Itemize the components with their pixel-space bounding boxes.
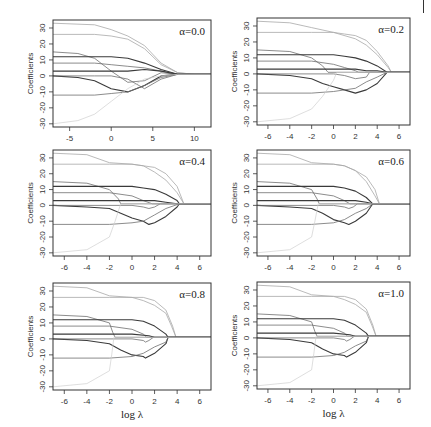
coef-line-b2 (257, 296, 410, 336)
x-tick-label: 6 (397, 263, 402, 272)
x-tick-label: 0 (130, 263, 135, 272)
x-tick-label: 4 (175, 263, 180, 272)
coef-line-b5 (53, 63, 211, 74)
y-axis-label: Coefficients (26, 182, 35, 224)
y-tick-label: -30 (38, 247, 47, 259)
y-tick-label: 0 (242, 203, 251, 208)
coefficient-paths (257, 21, 410, 122)
y-tick-label: 30 (242, 21, 251, 30)
coef-line-b5 (53, 193, 211, 204)
y-tick-label: 20 (38, 302, 47, 311)
x-tick-label: 0 (331, 396, 336, 405)
y-tick-label: 20 (242, 169, 251, 178)
y-tick-label: -20 (38, 365, 47, 377)
y-tick-label: 30 (38, 23, 47, 32)
y-tick-label: -10 (242, 215, 251, 227)
y-tick-label: 20 (242, 37, 251, 46)
coefficient-paths (257, 153, 410, 253)
y-tick-label: -30 (38, 117, 47, 129)
x-tick-label: 2 (353, 132, 358, 141)
x-tick-label: -4 (286, 132, 294, 141)
y-tick-label: -20 (38, 231, 47, 243)
x-tick-label: -6 (264, 132, 272, 141)
y-tick-label: 20 (38, 169, 47, 178)
y-tick-label: 10 (242, 53, 251, 62)
coef-line-b7 (53, 204, 211, 225)
x-tick-label: -6 (61, 397, 69, 406)
y-tick-label: 0 (38, 203, 47, 208)
x-axis-label: log λ (121, 408, 144, 420)
y-tick-label: -30 (242, 379, 251, 391)
x-tick-label: -4 (286, 396, 294, 405)
figure: 3020100-10-20-30-50510Coefficientsα=0.03… (0, 0, 431, 427)
y-tick-label: 30 (38, 153, 47, 162)
corner-mark (423, 0, 424, 13)
y-tick-label: -30 (38, 380, 47, 392)
x-tick-label: 5 (151, 134, 156, 143)
x-tick-label: 4 (375, 396, 380, 405)
y-tick-label: -10 (242, 84, 251, 96)
coef-line-b4 (257, 186, 410, 203)
coefficient-paths (53, 153, 211, 253)
panel-4: 3020100-10-20-30-6-4-20246Coefficientsα=… (230, 150, 410, 272)
x-tick-label: -4 (83, 263, 91, 272)
coef-line-b4 (53, 320, 211, 338)
x-tick-label: -4 (83, 397, 91, 406)
coef-line-b5 (257, 325, 410, 336)
x-tick-label: 6 (197, 397, 202, 406)
panel-1: 3020100-10-20-30-50510Coefficientsα=0.0 (26, 20, 211, 143)
x-tick-label: 0 (130, 397, 135, 406)
y-tick-label: -30 (242, 115, 251, 127)
y-tick-label: 30 (242, 285, 251, 294)
y-tick-label: -20 (242, 100, 251, 112)
x-tick-label: 10 (190, 134, 199, 143)
panel-5: 3020100-10-20-30-6-4-20246Coefficientsα=… (26, 283, 211, 420)
y-tick-label: 30 (242, 153, 251, 162)
y-tick-label: 20 (242, 301, 251, 310)
coef-line-b10 (53, 204, 211, 253)
x-tick-label: -2 (106, 263, 114, 272)
x-tick-label: 0 (109, 134, 114, 143)
coef-line-b4 (53, 57, 211, 75)
x-tick-label: -2 (106, 397, 114, 406)
y-tick-label: -10 (38, 349, 47, 361)
alpha-label: α=1.0 (378, 287, 404, 299)
coef-line-b2 (53, 164, 211, 204)
y-tick-label: -20 (242, 364, 251, 376)
x-tick-label: -2 (308, 132, 316, 141)
y-tick-label: 0 (38, 73, 47, 78)
y-tick-label: 10 (38, 55, 47, 64)
x-tick-label: 0 (331, 132, 336, 141)
panel-3: 3020100-10-20-30-6-4-20246Coefficientsα=… (26, 150, 211, 272)
coefficient-paths (53, 286, 211, 387)
x-axis-label: log λ (322, 407, 345, 419)
alpha-label: α=0.8 (179, 288, 205, 300)
coef-line-b2 (53, 34, 211, 74)
coef-line-b10 (257, 336, 410, 386)
y-tick-label: 20 (38, 39, 47, 48)
y-axis-label: Coefficients (230, 315, 239, 357)
y-axis-label: Coefficients (230, 182, 239, 224)
y-tick-label: 10 (242, 185, 251, 194)
y-tick-label: -20 (38, 102, 47, 114)
coef-line-b4 (257, 319, 410, 337)
x-tick-label: 4 (375, 263, 380, 272)
coef-line-b5 (53, 326, 211, 337)
coefficient-paths (53, 23, 211, 124)
x-tick-label: 0 (331, 263, 336, 272)
y-tick-label: -10 (38, 215, 47, 227)
x-tick-label: -6 (264, 263, 272, 272)
alpha-label: α=0.0 (179, 25, 205, 37)
y-tick-label: 0 (242, 71, 251, 76)
x-tick-label: -6 (61, 263, 69, 272)
y-axis-label: Coefficients (230, 51, 239, 93)
alpha-label: α=0.2 (378, 23, 404, 35)
alpha-label: α=0.4 (179, 155, 205, 167)
y-tick-label: 10 (38, 318, 47, 327)
coef-line-b2 (53, 297, 211, 337)
x-tick-label: -2 (308, 263, 316, 272)
coef-line-b7 (257, 204, 410, 225)
y-tick-label: -10 (38, 86, 47, 98)
coef-line-b10 (53, 337, 211, 387)
y-tick-label: -10 (242, 348, 251, 360)
